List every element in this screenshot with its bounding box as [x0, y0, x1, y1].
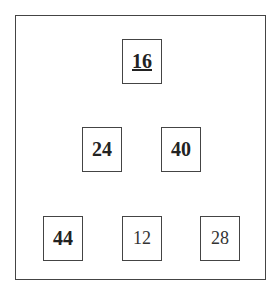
node-value: 24 — [92, 138, 112, 161]
node-value: 28 — [211, 228, 229, 249]
node-root: 16 — [122, 39, 162, 84]
node-value: 40 — [171, 138, 191, 161]
node-left-child: 24 — [82, 127, 122, 172]
node-value: 44 — [53, 227, 73, 250]
node-value: 16 — [132, 50, 152, 73]
node-value: 12 — [133, 228, 151, 249]
node-leaf-2: 12 — [122, 216, 162, 261]
node-right-child: 40 — [161, 127, 201, 172]
node-leaf-3: 28 — [200, 216, 240, 261]
node-leaf-1: 44 — [43, 216, 83, 261]
